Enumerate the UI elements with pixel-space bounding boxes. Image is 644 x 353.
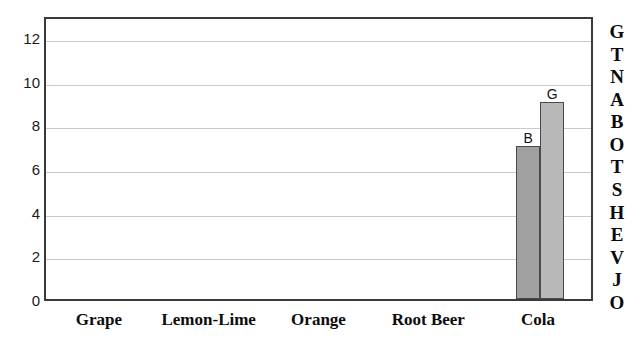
gridline <box>46 128 591 129</box>
y-tick-label: 2 <box>4 249 40 264</box>
gridline <box>46 172 591 173</box>
caption-character: A <box>610 90 624 109</box>
caption-character: T <box>611 157 624 176</box>
caption-character: J <box>612 270 622 289</box>
y-axis: 024681012 <box>0 0 40 353</box>
caption-character: S <box>612 180 623 199</box>
caption-character: E <box>611 225 624 244</box>
caption-character: O <box>610 135 625 154</box>
x-tick-label: Lemon-Lime <box>161 310 255 330</box>
x-tick-label: Orange <box>291 310 346 330</box>
caption-character: T <box>611 45 624 64</box>
bar-chart: 024681012 BG GrapeLemon-LimeOrangeRoot B… <box>0 0 644 353</box>
bar-series-label: G <box>526 87 578 101</box>
caption-character: N <box>610 67 624 86</box>
caption-character: B <box>611 112 624 131</box>
x-tick-label: Grape <box>76 310 122 330</box>
y-tick-label: 6 <box>4 162 40 177</box>
x-tick-label: Root Beer <box>392 310 465 330</box>
y-tick-label: 10 <box>4 75 40 90</box>
y-tick-label: 4 <box>4 206 40 221</box>
x-tick-label: Cola <box>521 310 555 330</box>
caption-character: V <box>610 248 624 267</box>
caption-character: H <box>610 203 625 222</box>
bar-series-label: B <box>502 131 554 145</box>
y-tick-label: 8 <box>4 118 40 133</box>
right-vertical-caption: GTNABOTSHEVJO <box>602 22 632 312</box>
gridline <box>46 216 591 217</box>
gridline <box>46 85 591 86</box>
caption-character: G <box>610 22 625 41</box>
plot-area: BG <box>44 17 593 301</box>
y-tick-label: 12 <box>4 31 40 46</box>
caption-character: O <box>610 293 625 312</box>
gridline <box>46 259 591 260</box>
y-tick-label: 0 <box>4 293 40 308</box>
x-axis: GrapeLemon-LimeOrangeRoot BeerCola <box>44 310 593 340</box>
bar <box>516 146 540 299</box>
gridline <box>46 41 591 42</box>
